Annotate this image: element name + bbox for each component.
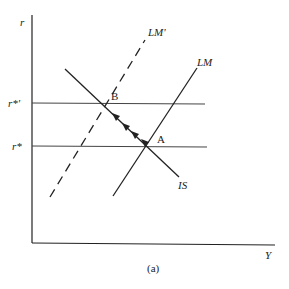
r-star-prime-label: r*' <box>8 97 21 109</box>
islm-diagram: r Y r*' r* LM' LM IS B A (a) <box>0 0 289 289</box>
point-b-label: B <box>111 90 118 102</box>
y-axis-label: r <box>20 16 25 28</box>
adjustment-arrows <box>112 113 149 147</box>
lm-prime-label: LM' <box>147 26 166 38</box>
lm-label: LM <box>196 56 213 68</box>
r-star-prime-line <box>32 103 205 104</box>
r-star-line <box>32 146 207 147</box>
lm-curve <box>113 68 197 196</box>
lm-prime-curve <box>50 40 145 197</box>
caption: (a) <box>147 262 160 275</box>
point-a-label: A <box>157 133 165 145</box>
r-star-label: r* <box>12 140 22 152</box>
x-axis <box>32 243 275 245</box>
is-label: IS <box>177 179 188 191</box>
x-axis-label: Y <box>265 249 273 261</box>
